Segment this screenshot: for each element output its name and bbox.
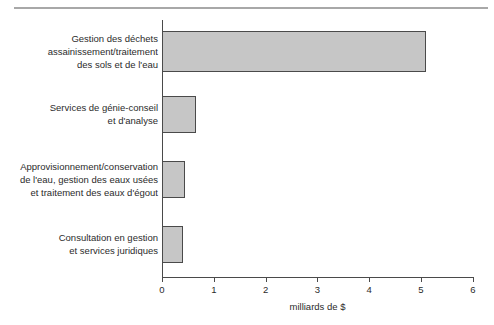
x-axis-tick-3 bbox=[317, 277, 318, 282]
x-axis-tick-label-4: 4 bbox=[354, 284, 384, 296]
x-axis-tick-4 bbox=[369, 277, 370, 282]
bar-gestion-des-dechets bbox=[162, 31, 426, 72]
category-label-services-de-genie-conseil: Services de génie-conseil et d'analyse bbox=[0, 101, 158, 127]
x-axis-tick-label-3: 3 bbox=[302, 284, 332, 296]
category-label-gestion-des-dechets: Gestion des déchets assainissement/trait… bbox=[0, 32, 158, 71]
x-axis-tick-label-2: 2 bbox=[251, 284, 281, 296]
bar-services-de-genie-conseil bbox=[162, 96, 196, 133]
x-axis-title: milliards de $ bbox=[162, 301, 473, 313]
bar-chart-plot-area: Gestion des déchets assainissement/trait… bbox=[0, 0, 494, 325]
x-axis-tick-0 bbox=[162, 277, 163, 282]
bar-consultation-en-gestion bbox=[162, 226, 183, 263]
x-axis-tick-label-1: 1 bbox=[199, 284, 229, 296]
x-axis-tick-1 bbox=[214, 277, 215, 282]
x-axis-tick-label-0: 0 bbox=[147, 284, 177, 296]
x-axis-tick-label-5: 5 bbox=[406, 284, 436, 296]
category-label-consultation-en-gestion: Consultation en gestion et services juri… bbox=[0, 231, 158, 257]
chart-page: Gestion des déchets assainissement/trait… bbox=[0, 0, 494, 325]
bar-approvisionnement-conservation bbox=[162, 161, 185, 198]
x-axis-tick-5 bbox=[421, 277, 422, 282]
x-axis-tick-2 bbox=[266, 277, 267, 282]
category-label-approvisionnement-conservation: Approvisionnement/conservation de l'eau,… bbox=[0, 160, 158, 199]
x-axis-tick-label-6: 6 bbox=[458, 284, 488, 296]
x-axis-tick-6 bbox=[473, 277, 474, 282]
